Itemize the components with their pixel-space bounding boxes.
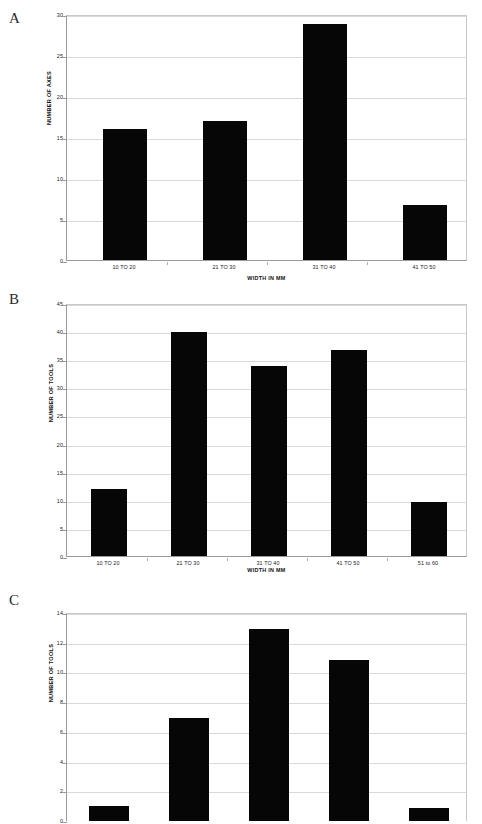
y-tick-mark	[63, 361, 67, 362]
x-axis-label-b: WIDTH IN MM	[207, 567, 327, 573]
y-tick-label: 40	[57, 329, 63, 335]
y-tick-label: 10	[57, 669, 63, 675]
y-tick-label: 14	[57, 610, 63, 616]
gridline	[67, 305, 466, 306]
y-tick-label: 10	[57, 176, 63, 182]
y-tick-mark	[63, 703, 67, 704]
x-tick-separator	[167, 262, 168, 265]
y-axis-label-c: NUMBER OF TOOLS	[48, 644, 54, 702]
x-tick-label: 10 TO 20	[94, 264, 154, 270]
bar	[249, 629, 289, 821]
gridline	[67, 361, 466, 362]
plot-area-a	[66, 15, 467, 261]
y-tick-label: 4	[60, 759, 63, 765]
x-tick-separator	[387, 558, 388, 561]
y-tick-label: 35	[57, 357, 63, 363]
x-tick-label: 31 TO 40	[294, 264, 354, 270]
y-tick-mark	[63, 733, 67, 734]
y-tick-label: 30	[57, 385, 63, 391]
y-tick-mark	[63, 822, 67, 823]
y-axis-label-a: NUMBER OF AXES	[46, 71, 52, 125]
x-tick-separator	[147, 558, 148, 561]
x-tick-label: 10 TO 20	[78, 560, 138, 566]
y-tick-label: 0	[60, 258, 63, 264]
x-tick-label: 21 TO 30	[194, 264, 254, 270]
x-tick-label: 41 TO 50	[318, 560, 378, 566]
panel-a: A NUMBER OF AXES WIDTH IN MM 05101520253…	[0, 0, 482, 290]
y-tick-label: 5	[60, 526, 63, 532]
x-axis-label-a: WIDTH IN MM	[207, 275, 327, 281]
y-tick-label: 2	[60, 788, 63, 794]
gridline	[67, 57, 466, 58]
y-tick-label: 15	[57, 135, 63, 141]
y-tick-mark	[63, 305, 67, 306]
gridline	[67, 16, 466, 17]
y-tick-mark	[63, 262, 67, 263]
y-tick-mark	[63, 98, 67, 99]
panel-letter-a: A	[9, 10, 20, 27]
panel-letter-b: B	[9, 291, 19, 308]
x-tick-label: 31 TO 40	[238, 560, 298, 566]
gridline	[67, 98, 466, 99]
y-tick-mark	[63, 57, 67, 58]
y-tick-label: 6	[60, 729, 63, 735]
y-tick-mark	[63, 502, 67, 503]
y-tick-label: 25	[57, 413, 63, 419]
y-tick-label: 15	[57, 470, 63, 476]
x-tick-separator	[367, 262, 368, 265]
y-tick-label: 0	[60, 818, 63, 824]
y-tick-label: 10	[57, 498, 63, 504]
bar	[203, 121, 247, 260]
y-tick-mark	[63, 417, 67, 418]
x-tick-label: 41 TO 50	[394, 264, 454, 270]
y-tick-mark	[63, 530, 67, 531]
bar	[329, 660, 369, 821]
y-tick-mark	[63, 474, 67, 475]
y-tick-mark	[63, 389, 67, 390]
bar	[331, 350, 367, 556]
y-tick-label: 30	[57, 12, 63, 18]
x-tick-label: 21 TO 30	[158, 560, 218, 566]
plot-area-c	[66, 613, 467, 821]
y-tick-label: 20	[57, 442, 63, 448]
bar	[171, 332, 207, 556]
y-tick-label: 12	[57, 640, 63, 646]
y-tick-mark	[63, 180, 67, 181]
bar	[303, 24, 347, 260]
bar	[169, 718, 209, 821]
x-tick-separator	[267, 262, 268, 265]
y-tick-label: 20	[57, 94, 63, 100]
gridline	[67, 333, 466, 334]
y-tick-label: 25	[57, 53, 63, 59]
x-tick-separator	[307, 558, 308, 561]
y-tick-mark	[63, 763, 67, 764]
y-tick-mark	[63, 558, 67, 559]
y-tick-label: 8	[60, 699, 63, 705]
bar	[251, 366, 287, 556]
y-tick-mark	[63, 792, 67, 793]
panel-b: B NUMBER OF TOOLS WIDTH IN MM 0510152025…	[0, 290, 482, 590]
plot-area-b	[66, 304, 467, 557]
bar	[411, 502, 447, 556]
bar	[91, 489, 127, 556]
y-tick-mark	[63, 644, 67, 645]
y-tick-mark	[63, 333, 67, 334]
y-tick-mark	[63, 16, 67, 17]
y-axis-label-b: NUMBER OF TOOLS	[48, 364, 54, 422]
bar	[89, 806, 129, 821]
y-tick-label: 5	[60, 217, 63, 223]
y-tick-mark	[63, 221, 67, 222]
y-tick-mark	[63, 673, 67, 674]
panel-letter-c: C	[9, 592, 19, 609]
y-tick-mark	[63, 614, 67, 615]
x-tick-separator	[227, 558, 228, 561]
y-tick-mark	[63, 446, 67, 447]
y-tick-label: 0	[60, 554, 63, 560]
gridline	[67, 614, 466, 615]
bar	[409, 808, 449, 821]
y-tick-mark	[63, 139, 67, 140]
bar	[103, 129, 147, 260]
y-tick-label: 45	[57, 301, 63, 307]
bar	[403, 205, 447, 260]
